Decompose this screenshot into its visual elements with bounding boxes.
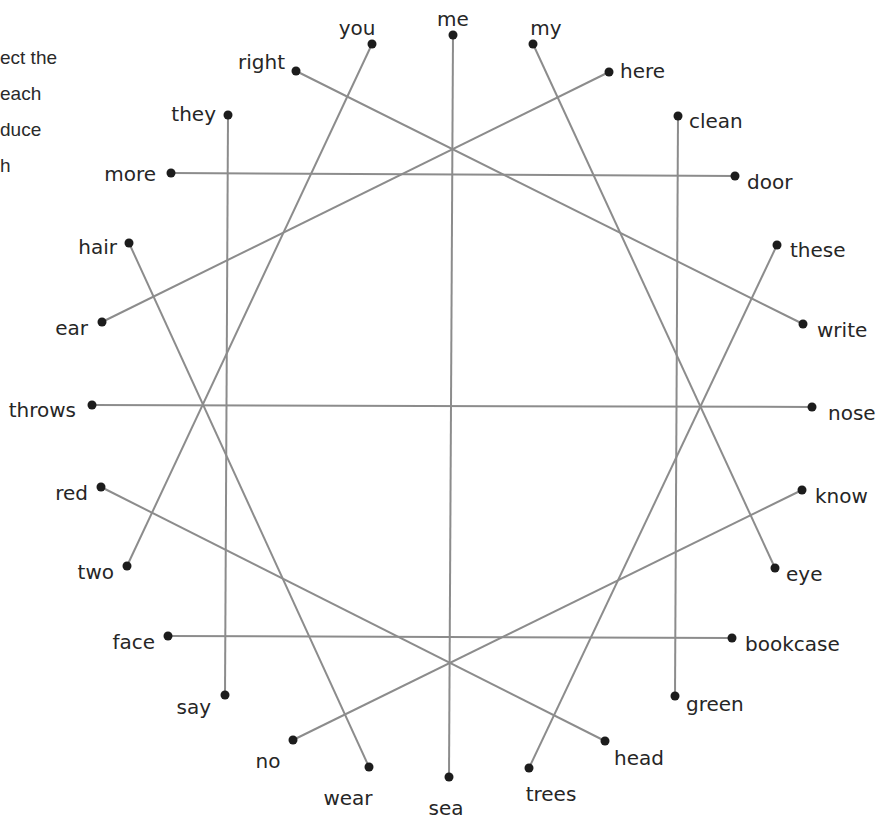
word-node-nose[interactable]: nose [808,401,876,425]
word-label: here [620,59,665,83]
word-node-green[interactable]: green [671,692,744,716]
word-label: door [747,170,793,194]
word-node-wear[interactable]: wear [323,763,373,810]
dot-icon[interactable] [123,562,132,571]
dot-icon[interactable] [125,239,134,248]
word-label: know [815,484,868,508]
word-node-they[interactable]: they [171,102,232,126]
dot-icon[interactable] [98,318,107,327]
dot-icon[interactable] [368,40,377,49]
word-node-bookcase[interactable]: bookcase [728,632,840,656]
word-node-throws[interactable]: throws [9,398,97,422]
word-node-clean[interactable]: clean [674,109,743,133]
word-node-write[interactable]: write [799,318,868,342]
word-label: head [614,746,664,770]
word-node-trees[interactable]: trees [525,764,577,806]
dot-icon[interactable] [674,112,683,121]
word-node-door[interactable]: door [731,170,794,194]
connection-these-trees [529,245,777,768]
dot-icon[interactable] [605,68,614,77]
dot-icon[interactable] [88,401,97,410]
word-label: two [78,560,114,584]
word-node-face[interactable]: face [112,630,172,654]
word-label: face [112,630,155,654]
word-label: trees [526,782,577,806]
dot-icon[interactable] [798,486,807,495]
word-node-know[interactable]: know [798,484,868,508]
word-node-sea[interactable]: sea [429,773,464,819]
word-label: nose [828,401,876,425]
word-label: sea [429,796,464,819]
word-node-my[interactable]: my [529,16,562,49]
rhyming-words-diagram: meyoumyrightheretheycleanmoredoorhairthe… [0,0,890,819]
dot-icon[interactable] [728,634,737,643]
word-node-no[interactable]: no [256,736,298,773]
dot-icon[interactable] [799,320,808,329]
word-node-head[interactable]: head [601,737,664,770]
connection-hair-wear [129,243,369,767]
word-label: right [238,50,285,74]
connection-throws-nose [92,405,812,407]
word-label: say [176,695,211,719]
word-label: hair [78,235,117,259]
dot-icon[interactable] [808,403,817,412]
dot-icon[interactable] [449,31,458,40]
word-label: write [817,318,867,342]
word-node-red[interactable]: red [55,481,105,505]
dot-icon[interactable] [289,736,298,745]
dot-icon[interactable] [771,564,780,573]
dot-icon[interactable] [773,241,782,250]
connection-lines [92,35,812,777]
word-node-hair[interactable]: hair [78,235,133,259]
dot-icon[interactable] [445,773,454,782]
connection-face-bookcase [168,636,732,638]
dot-icon[interactable] [365,763,374,772]
connection-you-two [127,44,372,566]
word-node-eye[interactable]: eye [771,562,823,586]
dot-icon[interactable] [221,691,230,700]
word-node-you[interactable]: you [339,16,377,49]
word-label: ear [55,316,89,340]
word-node-here[interactable]: here [605,59,666,83]
word-label: eye [786,562,822,586]
word-label: more [104,162,156,186]
word-label: they [171,102,216,126]
dot-icon[interactable] [731,172,740,181]
dot-icon[interactable] [525,764,534,773]
dot-icon[interactable] [292,67,301,76]
dot-icon[interactable] [167,169,176,178]
word-label: wear [323,786,373,810]
dot-icon[interactable] [97,483,106,492]
word-label: red [55,481,88,505]
word-label: my [530,16,561,40]
dot-icon[interactable] [164,632,173,641]
dot-icon[interactable] [224,111,233,120]
word-label: me [437,7,469,31]
word-label: you [339,16,376,40]
word-label: no [256,749,281,773]
word-label: throws [9,398,76,422]
word-nodes: meyoumyrightheretheycleanmoredoorhairthe… [9,7,876,819]
word-node-right[interactable]: right [238,50,301,76]
dot-icon[interactable] [601,737,610,746]
dot-icon[interactable] [671,692,680,701]
word-label: green [686,692,744,716]
word-node-two[interactable]: two [78,560,132,584]
word-node-more[interactable]: more [104,162,175,186]
word-node-me[interactable]: me [437,7,469,40]
word-label: clean [689,109,743,133]
word-node-these[interactable]: these [773,238,846,262]
word-node-ear[interactable]: ear [55,316,106,340]
word-label: these [790,238,846,262]
dot-icon[interactable] [529,40,538,49]
word-label: bookcase [745,632,840,656]
word-node-say[interactable]: say [176,691,229,719]
